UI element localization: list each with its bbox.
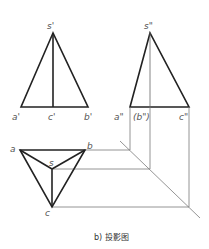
label-a-double-prime: a": [114, 112, 124, 122]
label-a-prime: a': [12, 112, 20, 122]
figure-caption: b) 投影图: [94, 232, 129, 242]
label-c: c: [45, 208, 50, 218]
label-c-prime: c': [48, 112, 55, 122]
label-s: s: [49, 158, 54, 168]
side-view-triangle: [130, 33, 189, 107]
label-s-prime: s': [47, 21, 54, 31]
miter-line-45deg: [120, 141, 200, 218]
front-view-triangle: [21, 33, 88, 107]
label-b: b: [87, 141, 93, 151]
label-a: a: [10, 144, 16, 154]
label-c-double-prime: c": [179, 112, 188, 122]
label-b-double-prime: (b"): [133, 112, 150, 122]
side-view: [130, 33, 189, 107]
label-b-prime: b': [84, 112, 92, 122]
label-s-double-prime: s": [144, 21, 153, 31]
projection-lines: [52, 107, 200, 218]
projection-drawing: s' a' c' b' s" a" (b") c" a b s c b) 投影图: [0, 0, 209, 249]
front-view: [21, 33, 88, 107]
